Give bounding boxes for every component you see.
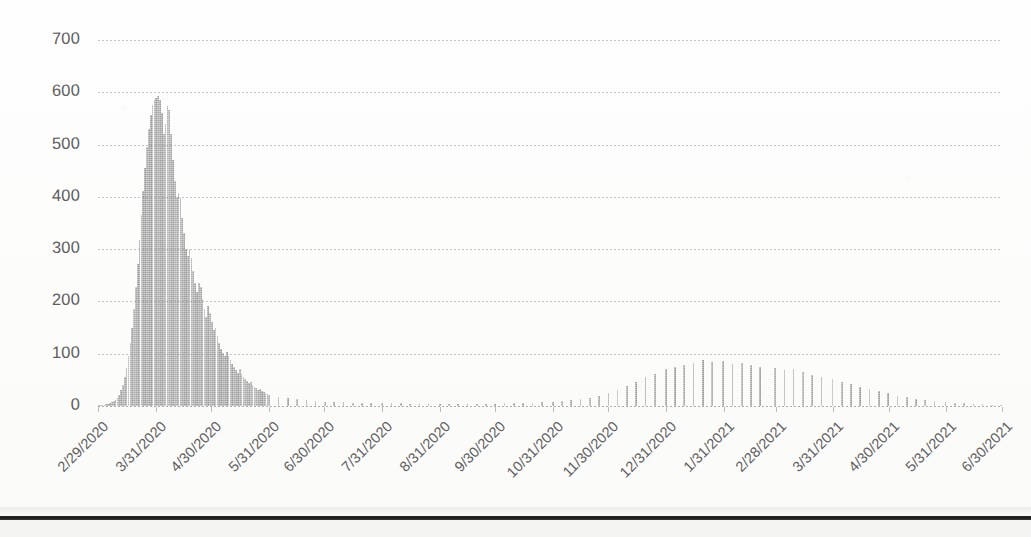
x-axis-line (98, 406, 1002, 407)
x-axis-tick-mark (156, 407, 157, 412)
bar (784, 370, 786, 406)
bar (665, 369, 667, 406)
x-axis-tick-mark (666, 407, 667, 412)
x-axis-tick-mark (269, 407, 270, 412)
x-axis-tick-mark (98, 407, 99, 412)
y-gridline (98, 40, 1002, 41)
bar (841, 382, 843, 406)
x-axis-tick-mark (889, 407, 890, 412)
bar (268, 395, 270, 407)
y-axis-tick-label: 0 (18, 395, 80, 415)
y-axis-tick-label: 400 (18, 186, 80, 206)
bar (741, 363, 743, 406)
bar (793, 369, 795, 406)
x-axis-tick-mark (382, 407, 383, 412)
bar (608, 393, 610, 406)
y-axis-tick-label: 700 (18, 29, 80, 49)
y-axis-tick-label: 200 (18, 290, 80, 310)
y-gridline (98, 92, 1002, 93)
page-edge-shadow (0, 507, 1031, 516)
bar (654, 374, 656, 406)
bar (589, 398, 591, 406)
bar (774, 368, 776, 406)
bar (278, 397, 280, 406)
plot-area (98, 40, 1002, 406)
bar (674, 367, 676, 406)
bar (869, 389, 871, 406)
bar (811, 375, 813, 406)
bar (626, 386, 628, 406)
bar (750, 365, 752, 406)
bar (859, 387, 861, 406)
bar (850, 384, 852, 406)
bar (287, 398, 289, 406)
bar (897, 396, 899, 406)
x-axis-tick-mark (724, 407, 725, 412)
y-gridline (98, 301, 1002, 302)
bar (802, 372, 804, 406)
y-gridline (98, 249, 1002, 250)
page-below-edge (0, 520, 1031, 537)
y-gridline (98, 197, 1002, 198)
bar (598, 396, 600, 406)
bar (878, 391, 880, 406)
x-axis-tick-mark (495, 407, 496, 412)
bar-chart: 70060050040030020010002/29/20203/31/2020… (0, 0, 1031, 537)
bar (693, 363, 695, 406)
x-axis-tick-mark (946, 407, 947, 412)
y-gridline (98, 354, 1002, 355)
bar (617, 390, 619, 406)
y-gridline (98, 145, 1002, 146)
bar (702, 360, 704, 406)
x-axis-tick-mark (211, 407, 212, 412)
bar (580, 399, 582, 406)
y-axis-tick-label: 500 (18, 133, 80, 153)
y-axis-tick-label: 300 (18, 238, 80, 258)
bar (887, 393, 889, 406)
x-axis-tick-mark (608, 407, 609, 412)
bar (732, 364, 734, 406)
y-axis-tick-label: 600 (18, 81, 80, 101)
bar (821, 377, 823, 406)
bar (906, 397, 908, 406)
y-axis-tick-label: 100 (18, 342, 80, 362)
bar (645, 377, 647, 406)
bar (915, 399, 917, 406)
x-axis-tick-mark (1002, 407, 1003, 412)
bar (722, 361, 724, 406)
x-axis-tick-mark (440, 407, 441, 412)
x-axis-tick-mark (776, 407, 777, 412)
x-axis-tick-mark (833, 407, 834, 412)
x-axis-tick-mark (324, 407, 325, 412)
x-axis-tick-mark (553, 407, 554, 412)
bar (832, 379, 834, 406)
bar (683, 365, 685, 406)
bar (711, 362, 713, 406)
bar (635, 382, 637, 406)
bar (759, 367, 761, 406)
bar (296, 399, 298, 406)
